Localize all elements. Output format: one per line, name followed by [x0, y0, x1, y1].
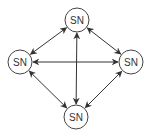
node-right: SN — [119, 50, 143, 74]
node-top: SN — [65, 8, 89, 32]
node-right-label: SN — [124, 57, 138, 68]
node-bottom-label: SN — [69, 112, 83, 123]
node-left-label: SN — [13, 57, 27, 68]
edge-right-bottom — [85, 71, 122, 108]
edge-top-left — [30, 28, 66, 55]
edge-top-right — [87, 28, 120, 54]
network-diagram: SN SN SN SN — [0, 0, 151, 132]
nodes: SN SN SN SN — [8, 8, 143, 129]
node-left: SN — [8, 50, 32, 74]
edges — [29, 28, 122, 108]
edge-left-bottom — [29, 71, 66, 108]
node-top-label: SN — [70, 15, 84, 26]
node-bottom: SN — [64, 105, 88, 129]
edge-top-bottom — [76, 33, 77, 104]
